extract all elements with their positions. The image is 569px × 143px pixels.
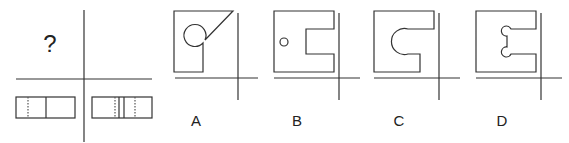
option-d[interactable]: D (476, 11, 562, 129)
option-a-shape (174, 11, 233, 72)
side-view (92, 97, 152, 118)
option-b-label: B (292, 112, 302, 129)
option-d-label: D (497, 112, 508, 129)
option-b[interactable]: B (274, 11, 360, 129)
option-c-shape (374, 11, 434, 72)
option-a[interactable]: A (174, 11, 258, 129)
option-c-label: C (394, 112, 405, 129)
three-view-puzzle: ? A B C D (0, 0, 569, 143)
option-b-shape (274, 11, 334, 72)
front-view (16, 97, 75, 118)
question-mark: ? (43, 30, 56, 57)
option-d-shape (476, 11, 536, 72)
hole-icon (280, 38, 288, 46)
option-c[interactable]: C (374, 11, 460, 129)
option-a-label: A (191, 112, 201, 129)
